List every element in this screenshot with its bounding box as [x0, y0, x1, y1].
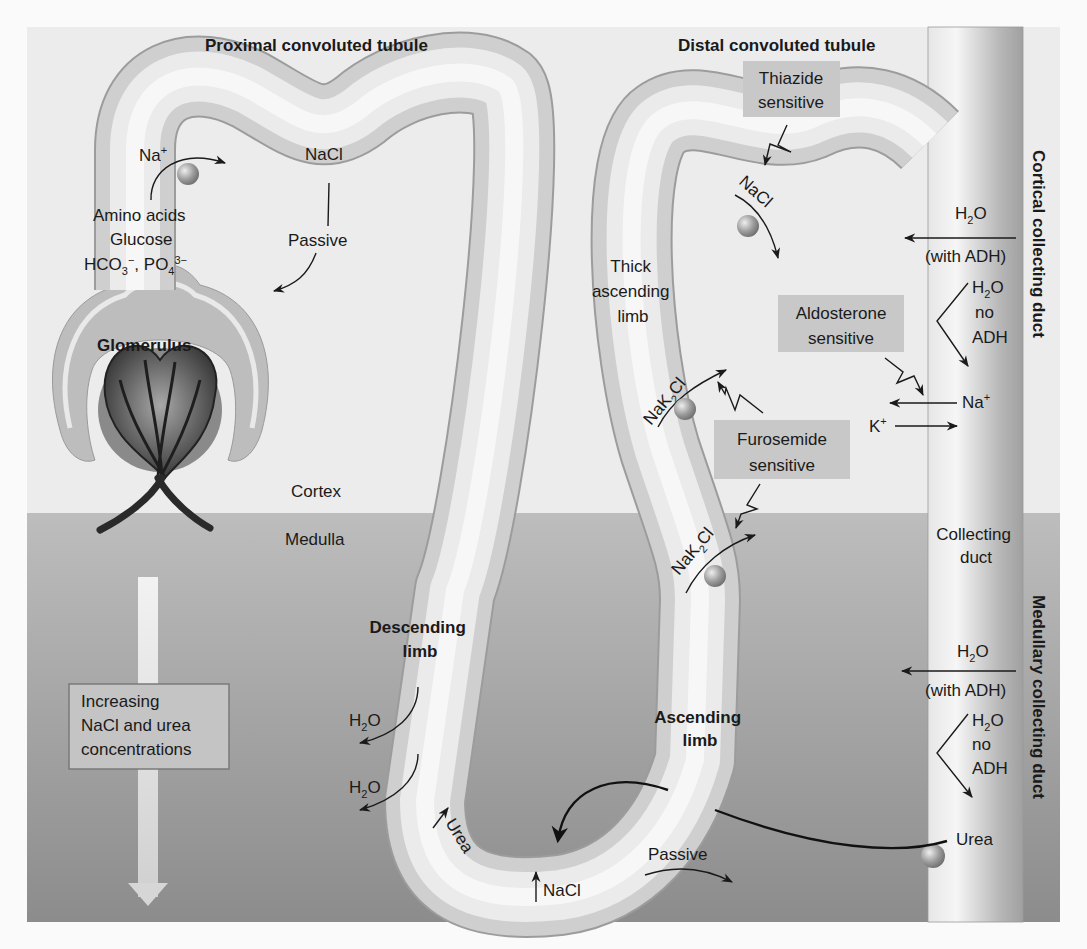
cortical-collecting-duct-label: Cortical collecting duct [1029, 150, 1048, 338]
medullary-collecting-duct-label: Medullary collecting duct [1029, 595, 1048, 799]
svg-text:(with ADH): (with ADH) [925, 681, 1006, 700]
thiazide-box: Thiazidesensitive [743, 61, 840, 117]
glomerulus-label: Glomerulus [97, 336, 191, 355]
proximal-tubule-title: Proximal convoluted tubule [205, 36, 428, 55]
distal-tubule-title: Distal convoluted tubule [678, 36, 875, 55]
svg-text:ADH: ADH [972, 759, 1008, 778]
svg-text:no: no [972, 735, 991, 754]
svg-text:(with ADH): (with ADH) [925, 247, 1006, 266]
svg-text:Passive: Passive [288, 231, 348, 250]
svg-text:ADH: ADH [972, 328, 1008, 347]
svg-text:NaCl: NaCl [543, 881, 581, 900]
collecting-duct [928, 27, 1023, 922]
transporter-ball [177, 163, 199, 185]
nephron-diagram: Proximal convoluted tubule Distal convol… [0, 0, 1087, 949]
medulla-label: Medulla [285, 530, 345, 549]
svg-text:Passive: Passive [648, 845, 708, 864]
furosemide-box: Furosemidesensitive [714, 420, 850, 479]
svg-text:Amino acids: Amino acids [93, 206, 186, 225]
svg-text:Urea: Urea [956, 830, 993, 849]
concentration-gradient-box: Increasing NaCl and urea concentrations [69, 684, 229, 769]
svg-text:no: no [975, 303, 994, 322]
aldosterone-box: Aldosteronesensitive [778, 295, 904, 352]
svg-text:Glucose: Glucose [110, 230, 172, 249]
svg-text:NaCl: NaCl [305, 145, 343, 164]
cortex-label: Cortex [291, 482, 342, 501]
